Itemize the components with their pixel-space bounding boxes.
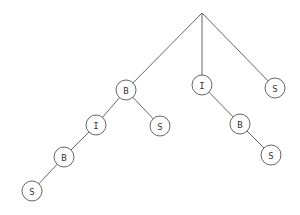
node-label: S (268, 151, 273, 161)
tree-node-b: B (116, 80, 136, 100)
node-label: S (29, 187, 34, 197)
node-label: B (123, 86, 128, 96)
tree-node-i: I (86, 115, 106, 135)
tree-node-i: I (192, 75, 212, 95)
tree-edge (133, 97, 153, 118)
tree-node-s: S (22, 181, 42, 201)
node-label: I (199, 81, 204, 91)
tree-node-s: S (150, 116, 170, 136)
node-label: S (157, 122, 162, 132)
tree-nodes: BISISBBSS (22, 75, 285, 201)
tree-edge (71, 132, 89, 150)
node-label: B (61, 153, 66, 163)
tree-node-b: B (54, 147, 74, 167)
tree-edge (39, 164, 57, 183)
node-label: B (237, 120, 242, 130)
tree-edge (133, 13, 202, 83)
node-label: S (272, 84, 277, 94)
tree-diagram: BISISBBSS (0, 0, 300, 215)
tree-edge (247, 131, 264, 148)
tree-edge (103, 98, 120, 118)
tree-node-b: B (230, 114, 250, 134)
tree-edge (209, 92, 233, 117)
tree-node-s: S (265, 78, 285, 98)
node-label: I (93, 121, 98, 131)
tree-edge (202, 13, 268, 81)
tree-node-s: S (261, 145, 281, 165)
